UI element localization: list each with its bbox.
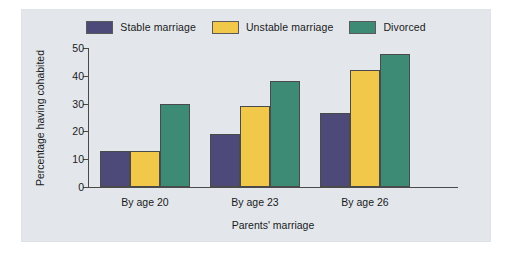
plot-area: 01020304050	[88, 48, 458, 187]
bar	[320, 113, 350, 187]
x-axis-category-label: By age 26	[341, 196, 388, 208]
x-axis-category-label: By age 23	[231, 196, 278, 208]
legend-entry-unstable-marriage: Unstable marriage	[212, 21, 334, 34]
y-tick-label: 50	[72, 42, 84, 54]
legend-swatch-divorced	[349, 21, 376, 34]
y-axis-line	[88, 48, 89, 187]
x-axis-line	[88, 187, 458, 188]
bar	[100, 151, 130, 187]
legend-label-divorced: Divorced	[383, 21, 425, 33]
y-tick-label: 0	[78, 181, 84, 193]
x-axis-title: Parents' marriage	[88, 219, 458, 231]
bar	[270, 81, 300, 187]
legend-label-unstable-marriage: Unstable marriage	[246, 21, 334, 33]
bar	[210, 134, 240, 187]
legend-swatch-unstable-marriage	[212, 21, 239, 34]
bar	[130, 151, 160, 187]
bar	[160, 104, 190, 187]
y-axis-title-text: Percentage having cohabited	[34, 49, 46, 185]
y-tick-label: 30	[72, 98, 84, 110]
x-axis-category-label: By age 20	[121, 196, 168, 208]
legend-swatch-stable-marriage	[86, 21, 113, 34]
y-tick-label: 40	[72, 70, 84, 82]
chart-legend: Stable marriage Unstable marriage Divorc…	[46, 16, 466, 38]
chart-figure: Stable marriage Unstable marriage Divorc…	[0, 0, 511, 259]
y-axis-title: Percentage having cohabited	[33, 48, 47, 187]
bar	[240, 106, 270, 187]
bar	[380, 54, 410, 187]
bar	[350, 70, 380, 187]
legend-label-stable-marriage: Stable marriage	[120, 21, 196, 33]
x-axis-title-text: Parents' marriage	[232, 219, 315, 231]
y-tick-label: 20	[72, 125, 84, 137]
legend-entry-divorced: Divorced	[349, 21, 425, 34]
y-tick-label: 10	[72, 153, 84, 165]
legend-entry-stable-marriage: Stable marriage	[86, 21, 196, 34]
